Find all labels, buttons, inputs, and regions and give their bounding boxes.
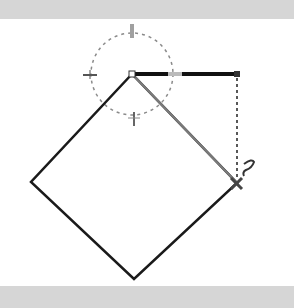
pivot-handle[interactable]: [129, 71, 135, 77]
rotate-cursor-icon: [243, 160, 254, 176]
rotated-square-shape[interactable]: [31, 74, 237, 279]
bottom-status-band: [0, 286, 294, 308]
diagonal-guide: [132, 74, 237, 183]
x-marker-icon[interactable]: [231, 178, 242, 189]
arm-bar-highlight: [168, 72, 182, 76]
drawing-canvas[interactable]: [0, 0, 294, 308]
rotation-tick-top[interactable]: [130, 24, 134, 38]
arm-end-handle[interactable]: [234, 71, 240, 77]
